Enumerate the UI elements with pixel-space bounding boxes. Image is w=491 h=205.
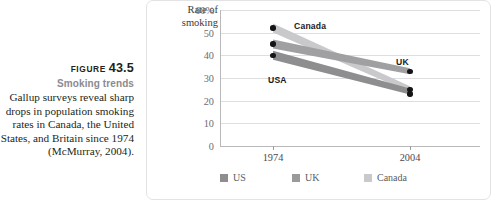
figure-number-line: FIGURE 43.5 [0,62,134,76]
figure-word: FIGURE [71,64,106,74]
legend-swatch-canada [364,174,372,182]
data-point-us-1974 [270,53,275,58]
chart-plot-area: Rate of smoking 60% 50 40 30 20 10 [146,0,480,205]
inline-label-usa: USA [268,75,287,85]
legend-item-canada: Canada [364,172,407,183]
figure-caption: FIGURE 43.5 Smoking trends Gallup survey… [0,62,134,158]
figure-subtitle: Smoking trends [0,77,134,90]
inline-label-usa-text: USA [268,75,287,85]
figure-caption-body: Gallup surveys reveal sharp drops in pop… [0,91,134,158]
inline-label-canada: Canada [294,21,326,31]
legend-label-us: US [233,172,246,183]
legend-label-canada: Canada [377,172,407,183]
legend-item-uk: UK [292,172,319,183]
data-point-uk-2004 [407,69,412,74]
inline-label-canada-text: Canada [294,21,326,31]
legend-item-us: US [220,172,246,183]
legend-swatch-us [220,174,228,182]
figure-number: 43.5 [109,61,134,75]
inline-label-uk: UK [396,57,409,67]
inline-label-uk-text: UK [396,57,409,67]
data-point-us-2004 [407,91,412,96]
legend-label-uk: UK [305,172,319,183]
data-point-canada-1974 [270,25,275,30]
chart-legend: US UK Canada [220,172,480,186]
data-point-uk-1974 [270,41,275,46]
legend-swatch-uk [292,174,300,182]
